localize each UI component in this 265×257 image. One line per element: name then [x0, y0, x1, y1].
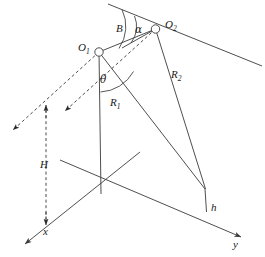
label-r1: R1	[109, 96, 120, 111]
label-o2-sub: 2	[173, 24, 177, 33]
label-axis-y: y	[232, 238, 238, 250]
label-r2-sub: 2	[178, 74, 182, 83]
y-axis-line	[60, 160, 241, 237]
label-height-h: h	[211, 201, 217, 213]
label-o2-base: O	[165, 18, 173, 30]
slant-range-R2-line	[156, 29, 206, 189]
o1-velocity-dashed-arrow	[13, 52, 99, 130]
slant-range-R1-line	[99, 52, 205, 189]
diagram-canvas: O1 O2 R1 R2 θ α B H h x y	[0, 0, 265, 257]
label-o2: O2	[165, 18, 177, 33]
o1-point-marker	[95, 48, 103, 56]
label-o1: O1	[78, 41, 90, 56]
label-alpha: α	[135, 23, 142, 35]
baseline-o1-o2	[99, 29, 156, 52]
ground-track-line	[108, 4, 262, 66]
label-r1-sub: 1	[117, 102, 121, 111]
label-axis-x: x	[42, 225, 48, 237]
o2-point-marker	[151, 25, 159, 33]
dashed-line-group	[13, 29, 156, 225]
text-label-group: O1 O2 R1 R2 θ α B H h x y	[39, 18, 238, 250]
geometry-figure: O1 O2 R1 R2 θ α B H h x y	[0, 0, 265, 257]
label-theta: θ	[100, 73, 107, 85]
label-beta: B	[116, 22, 123, 34]
solid-line-group	[25, 4, 262, 244]
label-height-H: H	[39, 158, 49, 170]
label-o1-base: O	[78, 41, 86, 53]
target-height-h-line	[205, 189, 207, 212]
label-o1-sub: 1	[86, 47, 90, 56]
